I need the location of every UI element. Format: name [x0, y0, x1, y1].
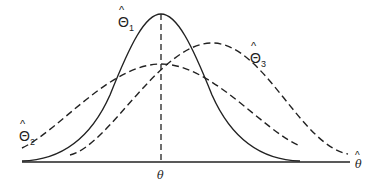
subscript: 2: [30, 137, 35, 147]
curve-theta3: [70, 43, 348, 155]
estimator-distributions-diagram: ^ Θ 1 ^ Θ 2 ^ Θ 3 θ ^ θ: [0, 0, 379, 185]
theta-glyph: Θ: [118, 14, 129, 30]
subscript: 1: [129, 23, 134, 33]
true-value-label: θ: [157, 169, 164, 182]
label-theta3: ^ Θ 3: [250, 40, 266, 69]
subscript: 3: [261, 59, 266, 69]
theta-glyph: θ: [355, 158, 362, 171]
theta-glyph: Θ: [250, 50, 261, 66]
x-axis-label: ^ θ: [355, 150, 362, 171]
theta-glyph: Θ: [19, 128, 30, 144]
label-theta1: ^ Θ 1: [118, 4, 134, 33]
label-theta2: ^ Θ 2: [19, 118, 35, 147]
